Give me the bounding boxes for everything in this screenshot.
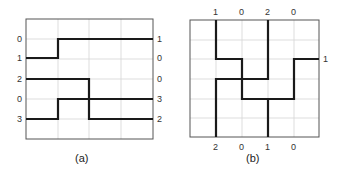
- panel-a-left-label: 0: [17, 34, 22, 44]
- panel-a-caption: (a): [75, 152, 88, 164]
- panel-b-right-label: 1: [323, 54, 328, 64]
- panel-b-top-label: 2: [265, 7, 270, 17]
- panel-a: 0 1 2 0 3 1 0 0 3 2 (a): [17, 19, 162, 164]
- panel-b: 1 0 2 0 2 0 1 0 1 (b): [190, 7, 328, 164]
- panel-a-left-label: 2: [17, 74, 22, 84]
- panel-b-wires: [216, 20, 319, 137]
- panel-b-top-label: 0: [239, 7, 244, 17]
- panel-a-right-label: 1: [157, 34, 162, 44]
- panel-a-right-label: 0: [157, 53, 162, 63]
- panel-a-right-label: 0: [157, 74, 162, 84]
- panel-b-caption: (b): [246, 152, 259, 164]
- wire-a-1: [26, 39, 153, 58]
- panel-b-bottom-label: 2: [213, 142, 218, 152]
- panel-a-right-label: 3: [157, 94, 162, 104]
- panel-a-left-label: 1: [17, 53, 22, 63]
- panel-a-left-label: 0: [17, 94, 22, 104]
- panel-b-bottom-label: 0: [239, 142, 244, 152]
- panel-b-top-label: 1: [213, 7, 218, 17]
- panel-a-right-label: 2: [157, 114, 162, 124]
- panel-b-bottom-label: 0: [291, 142, 296, 152]
- diagram-canvas: 0 1 2 0 3 1 0 0 3 2 (a) 1 0 2: [0, 0, 340, 175]
- panel-b-bottom-label: 1: [265, 142, 270, 152]
- panel-a-left-label: 3: [17, 114, 22, 124]
- panel-b-top-label: 0: [291, 7, 296, 17]
